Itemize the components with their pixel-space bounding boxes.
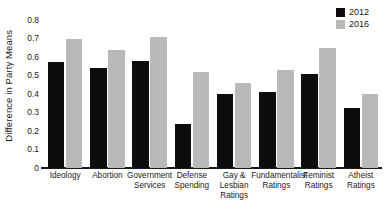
bar-2012: [132, 61, 149, 168]
bar-2012: [48, 62, 65, 168]
bar-chart: Difference in Party Means 00.10.20.30.40…: [0, 0, 387, 212]
bar-group: [86, 20, 128, 168]
x-axis-label-line: Ratings: [336, 181, 386, 191]
legend-swatch-2012: [336, 8, 345, 17]
legend-label: 2012: [349, 8, 369, 17]
x-axis-label: AtheistRatings: [336, 171, 386, 191]
legend-item: 2016: [336, 19, 369, 29]
y-axis-title-text: Difference in Party Means: [3, 30, 14, 142]
bar-group: [171, 20, 213, 168]
x-axis-category-labels: IdeologyAbortionGovernmentServicesDefens…: [44, 171, 382, 212]
bar-2012: [217, 94, 234, 168]
bar-group: [213, 20, 255, 168]
legend-item: 2012: [336, 7, 369, 17]
y-axis-tick-label: 0.6: [27, 53, 39, 62]
legend-label: 2016: [349, 20, 369, 29]
bar-group: [340, 20, 382, 168]
y-axis-tick-labels: 00.10.20.30.40.50.60.70.8: [16, 0, 42, 172]
y-axis-tick-label: 0.4: [27, 90, 39, 99]
y-axis-tick-label: 0.7: [27, 34, 39, 43]
y-axis-title: Difference in Party Means: [0, 0, 16, 172]
y-axis-tick-label: 0.8: [27, 16, 39, 25]
y-axis-tick-label: 0.3: [27, 108, 39, 117]
bar-2012: [301, 74, 318, 168]
bar-2012: [90, 68, 107, 168]
bar-2016: [193, 72, 210, 168]
bar-2012: [259, 92, 276, 168]
y-axis-tick-label: 0.1: [27, 145, 39, 154]
x-axis-label-line: Ratings: [209, 191, 259, 201]
legend-swatch-2016: [336, 20, 345, 29]
bar-2016: [108, 50, 125, 168]
bar-2016: [235, 83, 252, 168]
bar-2016: [362, 94, 379, 168]
x-axis-label-line: Atheist: [336, 171, 386, 181]
y-axis-tick-label: 0.2: [27, 127, 39, 136]
chart-legend: 20122016: [336, 7, 369, 29]
bar-group: [129, 20, 171, 168]
bar-2012: [344, 108, 361, 168]
bar-2012: [175, 124, 192, 168]
bar-2016: [319, 48, 336, 168]
bar-group: [44, 20, 86, 168]
bar-2016: [150, 37, 167, 168]
bar-group: [298, 20, 340, 168]
bar-group: [255, 20, 297, 168]
y-axis-tick-label: 0.5: [27, 71, 39, 80]
plot-area: [44, 20, 382, 168]
bar-2016: [277, 70, 294, 168]
y-axis-tick-label: 0: [34, 164, 39, 173]
bar-2016: [66, 39, 83, 169]
